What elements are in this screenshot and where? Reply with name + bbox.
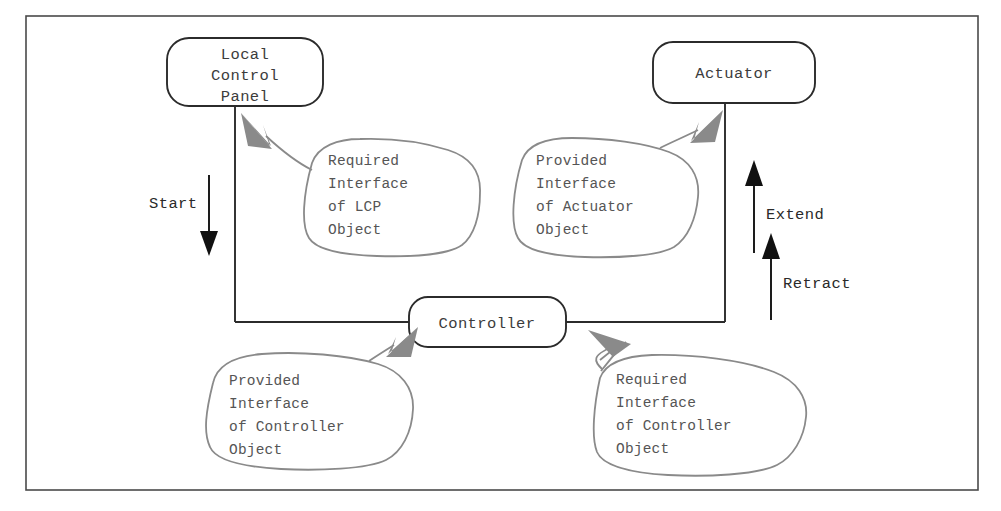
node-actuator-label: Actuator	[695, 65, 773, 83]
node-local-control-panel-line-0: Local	[221, 46, 270, 64]
callout-provided-interface-of-actuator-object-line-0: Provided	[536, 153, 607, 169]
callout-provided-interface-of-actuator-object-line-3: Object	[536, 222, 589, 238]
node-local-control-panel-line-2: Panel	[221, 88, 270, 106]
callout-required-interface-of-lcp-object-line-1: Interface	[328, 176, 408, 192]
callout-required-interface-of-lcp-object-line-2: of LCP	[328, 199, 381, 215]
callout-required-interface-of-controller-object-line-2: of Controller	[616, 418, 732, 434]
callout-provided-interface-of-controller-object-arrowhead	[386, 327, 418, 357]
callout-required-interface-of-lcp-object-arrowhead	[241, 113, 272, 149]
flow-label-extend: Extend	[766, 206, 824, 224]
diagram-root: Local Control Panel Actuator Controller	[0, 0, 1001, 511]
flow-arrow-extend	[745, 160, 763, 253]
callout-provided-interface-of-actuator-object-line-1: Interface	[536, 176, 616, 192]
callout-required-interface-of-controller-object-line-0: Required	[616, 372, 687, 388]
node-group: Local Control Panel Actuator Controller	[167, 38, 815, 347]
node-actuator[interactable]: Actuator	[653, 42, 815, 103]
flow-arrow-start-head	[200, 231, 218, 256]
callout-provided-interface-of-controller-object-line-0: Provided	[229, 373, 300, 389]
flow-label-retract: Retract	[783, 275, 851, 293]
callout-provided-interface-of-controller-object-line-1: Interface	[229, 396, 309, 412]
diagram-canvas: Local Control Panel Actuator Controller	[0, 0, 1001, 511]
flow-label-start: Start	[149, 195, 198, 213]
callout-required-interface-of-controller-object-line-1: Interface	[616, 395, 696, 411]
callout-provided-interface-of-controller-object-line-3: Object	[229, 442, 282, 458]
flow-arrow-retract-head	[762, 233, 780, 259]
callout-provided-interface-of-controller-object-line-2: of Controller	[229, 419, 345, 435]
node-controller[interactable]: Controller	[409, 297, 566, 347]
callout-required-interface-of-lcp-object-line-3: Object	[328, 222, 381, 238]
flow-arrow-retract	[762, 233, 780, 320]
node-local-control-panel-line-1: Control	[211, 67, 279, 85]
callout-required-interface-of-controller-object-line-3: Object	[616, 441, 669, 457]
callout-provided-interface-of-controller-object[interactable]: Provided Interface of Controller Object	[206, 327, 418, 470]
callout-required-interface-of-lcp-object[interactable]: Required Interface of LCP Object	[241, 113, 480, 256]
callout-required-interface-of-controller-object[interactable]: Required Interface of Controller Object	[588, 330, 806, 476]
callout-provided-interface-of-actuator-object[interactable]: Provided Interface of Actuator Object	[513, 110, 723, 257]
node-local-control-panel[interactable]: Local Control Panel	[167, 38, 323, 106]
callout-required-interface-of-lcp-object-line-0: Required	[328, 153, 399, 169]
callout-provided-interface-of-actuator-object-line-2: of Actuator	[536, 199, 634, 215]
node-controller-label: Controller	[438, 315, 535, 333]
flow-arrow-extend-head	[745, 160, 763, 186]
flow-arrow-group: Start Extend Retract	[149, 160, 851, 320]
flow-arrow-start	[200, 175, 218, 256]
callout-group: Required Interface of LCP Object Provide…	[206, 110, 806, 476]
callout-required-interface-of-lcp-object-leader	[266, 136, 312, 170]
callout-provided-interface-of-controller-object-leader	[369, 345, 394, 361]
callout-required-interface-of-controller-object-arrowhead	[588, 330, 631, 357]
